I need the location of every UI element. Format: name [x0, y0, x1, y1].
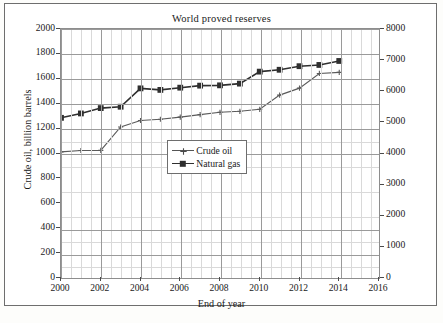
x-tick-2000: 2000: [40, 282, 80, 293]
y-tick-left-600: 600: [15, 196, 55, 207]
legend-label-crude-oil: Crude oil: [196, 145, 232, 156]
y-tickmark-right: [380, 277, 384, 278]
y-tick-left-0: 0: [15, 271, 55, 282]
x-tick-2016: 2016: [358, 282, 398, 293]
crude-oil-marker-icon: [172, 146, 194, 156]
y-tickmark-left: [56, 202, 60, 203]
legend-item-natural-gas: Natural gas: [172, 157, 240, 170]
x-tickmark: [259, 277, 260, 281]
y-tickmark-left: [56, 177, 60, 178]
chart-page: World proved reserves End of year Crude …: [0, 0, 443, 323]
x-tick-2010: 2010: [239, 282, 279, 293]
chart-frame: World proved reserves End of year Crude …: [4, 3, 437, 306]
y-tick-right-5000: 5000: [386, 115, 428, 126]
x-tick-2014: 2014: [318, 282, 358, 293]
y-tick-right-1000: 1000: [386, 239, 428, 250]
x-axis-title: End of year: [5, 298, 438, 309]
y-tickmark-right: [380, 28, 384, 29]
x-tickmark: [299, 277, 300, 281]
y-tick-right-4000: 4000: [386, 146, 428, 157]
y-tick-right-7000: 7000: [386, 53, 428, 64]
y-tick-left-1600: 1600: [15, 71, 55, 82]
chart-legend: Crude oil Natural gas: [167, 140, 247, 174]
y-tickmark-left: [56, 227, 60, 228]
legend-item-crude-oil: Crude oil: [172, 144, 240, 157]
y-tickmark-right: [380, 90, 384, 91]
x-tick-2012: 2012: [279, 282, 319, 293]
y-tickmark-right: [380, 153, 384, 154]
y-tickmark-right: [380, 246, 384, 247]
x-tickmark: [338, 277, 339, 281]
y-tickmark-left: [56, 128, 60, 129]
x-tick-2008: 2008: [199, 282, 239, 293]
natural-gas-marker-icon: [172, 159, 194, 169]
x-tick-2002: 2002: [80, 282, 120, 293]
y-tick-left-1000: 1000: [15, 146, 55, 157]
y-tick-left-1400: 1400: [15, 96, 55, 107]
x-tickmark: [219, 277, 220, 281]
y-tickmark-right: [380, 184, 384, 185]
y-tickmark-left: [56, 53, 60, 54]
x-tickmark: [60, 277, 61, 281]
y-tick-right-2000: 2000: [386, 208, 428, 219]
y-tickmark-left: [56, 78, 60, 79]
x-tickmark: [378, 277, 379, 281]
y-tick-right-0: 0: [386, 271, 428, 282]
y-tickmark-left: [56, 153, 60, 154]
x-tickmark: [140, 277, 141, 281]
y-tickmark-right: [380, 59, 384, 60]
x-tickmark: [100, 277, 101, 281]
y-tick-left-800: 800: [15, 171, 55, 182]
y-tick-right-6000: 6000: [386, 84, 428, 95]
y-tick-left-200: 200: [15, 246, 55, 257]
y-tick-left-1200: 1200: [15, 121, 55, 132]
y-tickmark-left: [56, 103, 60, 104]
y-tickmark-right: [380, 121, 384, 122]
y-tick-left-2000: 2000: [15, 22, 55, 33]
y-tick-right-8000: 8000: [386, 22, 428, 33]
y-tick-right-3000: 3000: [386, 177, 428, 188]
x-tick-2006: 2006: [159, 282, 199, 293]
x-tickmark: [179, 277, 180, 281]
y-tickmark-left: [56, 28, 60, 29]
y-tick-left-1800: 1800: [15, 46, 55, 57]
y-tick-left-400: 400: [15, 221, 55, 232]
x-tick-2004: 2004: [120, 282, 160, 293]
chart-title: World proved reserves: [5, 13, 438, 24]
y-tickmark-right: [380, 215, 384, 216]
legend-label-natural-gas: Natural gas: [196, 158, 240, 169]
y-tickmark-left: [56, 252, 60, 253]
